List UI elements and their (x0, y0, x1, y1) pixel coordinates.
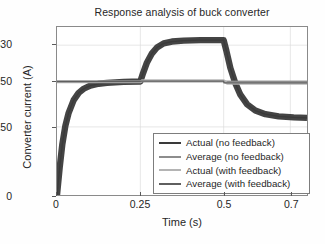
legend-line-swatch (159, 169, 181, 171)
x-axis-label: Time (s) (56, 216, 308, 228)
y-tick-label: 150 (0, 121, 12, 133)
legend-line-swatch (159, 142, 181, 144)
y-tick-mark (52, 81, 56, 82)
x-tick-label: 0.25 (130, 198, 150, 210)
y-tick-label: 330 (0, 38, 12, 50)
y-tick-mark (52, 127, 56, 128)
x-tick-mark (140, 192, 141, 196)
legend-item[interactable]: Actual (no feedback) (157, 136, 306, 149)
x-tick-mark (291, 192, 292, 196)
legend-line-swatch (159, 156, 181, 158)
y-axis-label: Converter current (A) (21, 22, 33, 212)
chart-legend: Actual (no feedback)Average (no feedback… (153, 133, 310, 194)
x-tick-mark (56, 192, 57, 196)
x-tick-label: 0.5 (217, 198, 232, 210)
y-tick-mark (52, 196, 56, 197)
legend-line-swatch (159, 183, 181, 185)
legend-label: Average (with feedback) (186, 179, 290, 189)
y-tick-label: 250 (0, 75, 12, 87)
legend-item[interactable]: Average (with feedback) (157, 178, 306, 191)
legend-label: Average (no feedback) (186, 152, 284, 162)
y-tick-label: 0 (0, 190, 12, 202)
chart-figure: Response analysis of buck converter Time… (0, 0, 325, 244)
legend-item[interactable]: Average (no feedback) (157, 150, 306, 163)
x-tick-mark (224, 192, 225, 196)
legend-label: Actual (with feedback) (186, 166, 281, 176)
x-tick-label: 0 (53, 198, 59, 210)
y-tick-mark (52, 44, 56, 45)
chart-title: Response analysis of buck converter (56, 6, 308, 18)
x-tick-label: 0.7 (284, 198, 299, 210)
legend-label: Actual (no feedback) (186, 138, 275, 148)
legend-item[interactable]: Actual (with feedback) (157, 164, 306, 177)
